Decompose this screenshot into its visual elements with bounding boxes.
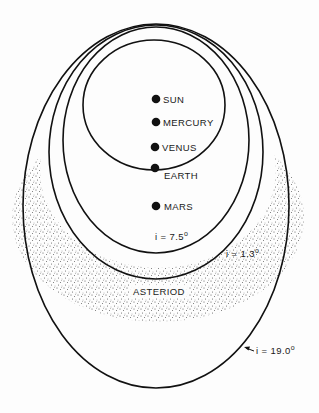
mercury-label: MERCURY bbox=[163, 117, 214, 128]
mars-label: MARS bbox=[164, 201, 193, 212]
inclination-1-3-label: i = 1.3o bbox=[226, 247, 259, 259]
inclination-19-label: i = 19.0o bbox=[256, 344, 295, 356]
orbit-diagram: SUN MERCURY VENUS EARTH MARS i = 7.5o i … bbox=[0, 0, 319, 413]
earth-label: EARTH bbox=[164, 170, 198, 181]
mercury-dot bbox=[152, 118, 161, 127]
earth-dot bbox=[151, 164, 160, 173]
mars-dot bbox=[152, 202, 161, 211]
diagram-canvas: SUN MERCURY VENUS EARTH MARS i = 7.5o i … bbox=[0, 0, 319, 413]
venus-dot bbox=[151, 143, 160, 152]
sun-label: SUN bbox=[163, 94, 184, 105]
venus-label: VENUS bbox=[162, 142, 197, 153]
inclination-7-5-label: i = 7.5o bbox=[155, 230, 188, 242]
asteroid-label: ASTERIOD bbox=[133, 286, 185, 297]
sun-dot bbox=[152, 95, 161, 104]
